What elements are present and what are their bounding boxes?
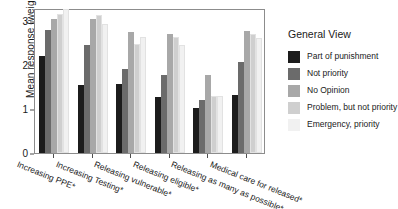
bar-group <box>189 10 228 153</box>
x-tick-mark <box>246 154 247 158</box>
legend-color-swatch <box>288 102 300 114</box>
legend-item[interactable]: Emergency, priority <box>288 116 396 133</box>
legend-title: General View <box>288 28 396 40</box>
bar <box>102 24 108 153</box>
bar-group <box>112 10 151 153</box>
legend-color-swatch <box>288 119 300 131</box>
legend-item-label: No Opinion <box>307 86 350 95</box>
bar-group <box>74 10 113 153</box>
bar <box>217 96 223 153</box>
legend-item-label: Not priority <box>307 69 348 78</box>
bar-group <box>228 10 267 153</box>
x-axis: Increasing PPE*Increasing Testing*Releas… <box>34 154 265 209</box>
legend-item[interactable]: Not priority <box>288 65 396 82</box>
legend-color-swatch <box>288 85 300 97</box>
bar-group <box>151 10 190 153</box>
bar <box>140 37 146 153</box>
bar <box>63 9 69 153</box>
legend-item-label: Part of punishment <box>307 52 378 61</box>
x-tick-mark <box>92 154 93 158</box>
y-tick-label: 0 <box>22 149 28 159</box>
legend-item-label: Emergency, priority <box>307 120 380 129</box>
legend-item[interactable]: Part of punishment <box>288 48 396 65</box>
y-axis: 0123 <box>0 0 34 209</box>
y-tick-label: 3 <box>22 17 28 27</box>
x-tick-mark <box>130 154 131 158</box>
legend-color-swatch <box>288 68 300 80</box>
legend-item[interactable]: No Opinion <box>288 82 396 99</box>
bars-container <box>35 10 264 153</box>
legend-item-label: Problem, but not priority <box>307 103 397 112</box>
bar <box>256 38 262 153</box>
bar-group <box>35 10 74 153</box>
legend-items: Part of punishmentNot priorityNo Opinion… <box>288 48 396 133</box>
plot-panel <box>34 9 265 154</box>
legend-color-swatch <box>288 51 300 63</box>
legend: General View Part of punishmentNot prior… <box>288 28 396 133</box>
y-tick-label: 2 <box>22 61 28 71</box>
chart-figure: Mean response (weighted) 0123 Increasing… <box>0 0 398 209</box>
x-tick-mark <box>53 154 54 158</box>
y-tick-label: 1 <box>22 105 28 115</box>
x-tick-mark <box>207 154 208 158</box>
bar <box>179 45 185 153</box>
legend-item[interactable]: Problem, but not priority <box>288 99 396 116</box>
x-tick-mark <box>169 154 170 158</box>
